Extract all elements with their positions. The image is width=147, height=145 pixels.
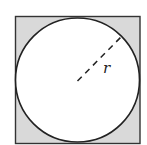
- radius-label: r: [103, 59, 111, 77]
- inscribed-circle-diagram: r: [0, 0, 147, 145]
